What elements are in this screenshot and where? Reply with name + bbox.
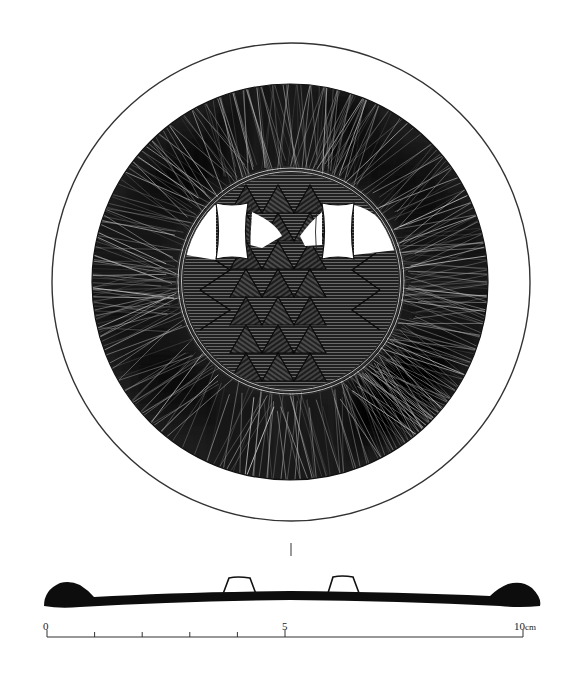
cross-section-profile bbox=[44, 576, 540, 608]
scale-label-10: 10cm bbox=[514, 621, 536, 632]
scale-label-5: 5 bbox=[282, 621, 288, 632]
lug-right bbox=[328, 576, 359, 593]
lug-left bbox=[223, 577, 256, 594]
inner-medallion bbox=[177, 167, 406, 396]
scale-unit: cm bbox=[525, 622, 536, 632]
white-panel-left bbox=[216, 203, 248, 259]
artifact-drawing bbox=[0, 0, 574, 687]
scale-label-0: 0 bbox=[43, 621, 49, 632]
white-panel-right bbox=[322, 203, 354, 259]
